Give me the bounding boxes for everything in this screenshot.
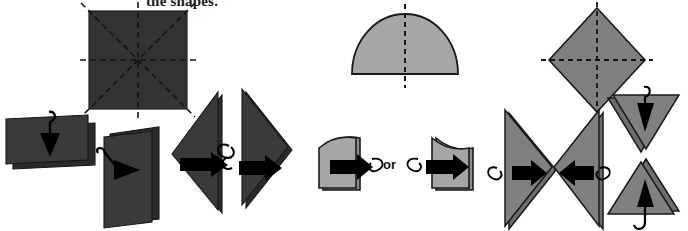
fold-left-arrow xyxy=(180,152,228,177)
quarter-circle-left-front-layer xyxy=(319,137,356,188)
rectangle-wide-front-layer xyxy=(6,115,88,164)
fold-right-arrow-rhombus xyxy=(512,160,547,186)
rotation-swirl-left xyxy=(218,145,234,169)
fold-up-arrow-rhombus xyxy=(634,179,654,229)
square-symmetry-group xyxy=(6,2,292,228)
square-shape xyxy=(89,11,187,109)
quarter-circle-right-result xyxy=(432,138,473,190)
rotation-swirl-right-inner xyxy=(597,167,610,179)
rectangle-tall-back-layer xyxy=(110,127,159,225)
or-label: or xyxy=(383,157,396,172)
triangle-right-back-layer xyxy=(509,113,556,229)
symmetry-axis-diagonal-tlbr xyxy=(81,3,195,117)
triangle-left-pointing-result xyxy=(554,110,603,229)
quarter-circle-left-back-layer xyxy=(323,137,360,190)
fold-right-arrow-quarter xyxy=(426,154,469,180)
fold-left-arrow-quarter xyxy=(330,154,373,180)
triangle-down-pointing-result xyxy=(608,95,679,152)
rhombus-symmetry-axes xyxy=(541,2,653,118)
fold-horizontal-result xyxy=(6,115,95,169)
fold-down-arrow xyxy=(40,112,60,157)
rhombus-symmetry-group xyxy=(488,2,679,229)
quarter-circle-right-front-layer xyxy=(432,138,469,188)
fold-left-arrow-rhombus xyxy=(559,160,594,186)
triangle-down-back-layer xyxy=(608,98,674,152)
symmetry-diagram-canvas: the shapes. or xyxy=(0,0,688,231)
semicircle-shape xyxy=(352,14,458,74)
triangle-right-front-layer xyxy=(242,89,288,205)
triangle-right-pointing-result xyxy=(505,110,556,229)
fold-right-arrow-vertical xyxy=(97,148,140,180)
triangle-left-front-layer xyxy=(172,92,218,210)
fold-diagonal-right-result xyxy=(242,89,292,208)
rotation-swirl-middle-right xyxy=(407,159,421,171)
quarter-circle-right-back-layer xyxy=(436,138,473,190)
fold-diagonal-left-result xyxy=(172,92,222,213)
fold-right-arrow-diagonal xyxy=(239,155,282,181)
triangle-up-pointing-result xyxy=(608,159,679,214)
triangle-left-front-layer xyxy=(554,110,599,226)
square-symmetry-axes xyxy=(80,2,196,118)
triangle-down-front-layer xyxy=(613,95,679,149)
fold-vertical-result xyxy=(104,127,159,228)
rotation-swirl-middle-left xyxy=(369,159,383,171)
page-title: the shapes. xyxy=(112,0,252,10)
triangle-left-back-layer xyxy=(558,113,603,229)
rhombus-shape xyxy=(549,8,645,112)
rectangle-wide-back-layer xyxy=(13,123,95,169)
rotation-swirl-right-outer xyxy=(488,167,501,179)
triangle-left-back-layer xyxy=(176,95,222,213)
triangle-right-back-layer xyxy=(246,92,292,208)
triangle-up-back-layer xyxy=(613,159,679,211)
rectangle-tall-front-layer xyxy=(104,131,152,228)
quarter-circle-left-result xyxy=(319,137,360,190)
semicircle-symmetry-group xyxy=(319,4,473,190)
triangle-up-front-layer xyxy=(608,162,674,214)
triangle-right-front-layer xyxy=(505,110,552,226)
symmetry-axis-diagonal-trbl xyxy=(81,3,195,117)
fold-down-arrow-rhombus xyxy=(637,87,654,132)
